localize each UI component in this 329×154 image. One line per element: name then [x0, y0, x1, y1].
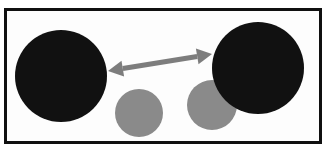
large-dark-circle-right	[212, 22, 304, 114]
large-dark-circle-left	[15, 30, 107, 122]
figure-canvas	[0, 0, 329, 154]
small-gray-circle-center	[115, 89, 163, 137]
